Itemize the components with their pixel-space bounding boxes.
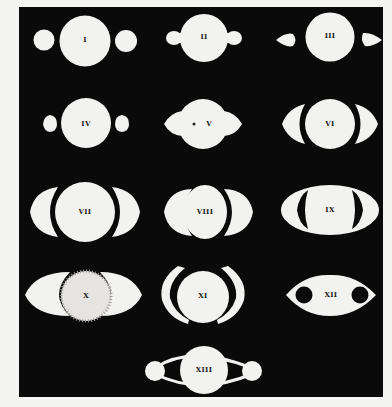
figure-label: VIII [196, 207, 213, 216]
figure-label: X [83, 291, 89, 300]
dark-spot [193, 123, 196, 126]
dark-hole [352, 287, 369, 304]
figure-label: XII [325, 290, 338, 299]
figure-label: XI [198, 291, 207, 300]
figure-label: V [205, 119, 212, 128]
figure-label: VI [324, 119, 334, 128]
figure-label: I [83, 35, 87, 44]
figure-VIII: VIII [164, 185, 253, 239]
figure-label: II [200, 32, 207, 41]
dark-hole [296, 287, 313, 304]
figure-label: IX [325, 205, 335, 214]
figure-label: IV [81, 119, 91, 128]
saturn-plate: I II III IV V [0, 0, 392, 407]
figure-label: XIII [196, 365, 212, 374]
figure-label: III [325, 31, 336, 40]
figure-label: VII [78, 207, 92, 216]
figure-IX: IX [281, 185, 379, 235]
figure-VII: VII [30, 182, 140, 242]
